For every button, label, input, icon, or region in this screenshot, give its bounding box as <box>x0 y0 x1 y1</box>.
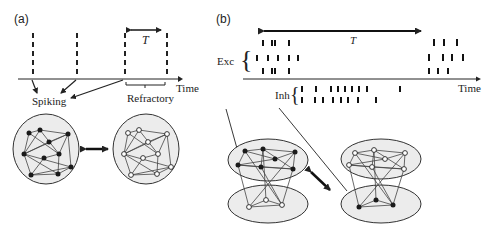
transition-arrow-b <box>311 172 330 190</box>
panel-b-label: (b) <box>216 13 231 25</box>
inh-label: Inh <box>275 90 290 101</box>
period-label-a: T <box>142 34 149 46</box>
panel-a-label: (a) <box>14 13 29 25</box>
time-label-a: Time <box>176 83 199 94</box>
exc-brace: { <box>240 45 252 74</box>
inh-active-network <box>341 139 421 223</box>
panel-b: { { <box>226 31 481 223</box>
exc-raster <box>257 39 463 74</box>
period-label-b: T <box>350 35 356 46</box>
spiking-label: Spiking <box>32 96 66 107</box>
exc-active-network <box>228 139 308 223</box>
refractory-label: Refractory <box>127 93 174 104</box>
inh-brace: { <box>290 83 300 105</box>
spiking-network <box>13 114 79 184</box>
refractory-bracket <box>126 82 165 88</box>
time-label-b: Time <box>458 83 481 94</box>
inh-raster <box>302 86 400 103</box>
exc-label: Exc <box>217 56 234 67</box>
figure-canvas: { { <box>0 0 493 235</box>
refractory-network <box>113 114 179 184</box>
panel-a <box>13 30 183 184</box>
